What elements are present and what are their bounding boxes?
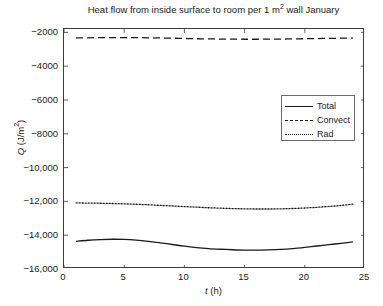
chart-title-tail: wall January — [284, 4, 339, 15]
x-axis-tick-label: 15 — [238, 271, 249, 282]
legend-item-total[interactable]: Total — [285, 99, 336, 113]
y-axis-tick-label: −2000 — [31, 26, 58, 37]
legend-item-label: Total — [317, 101, 336, 111]
chart-legend: TotalConvectRad — [281, 95, 355, 141]
y-axis-tick-label: −14,000 — [23, 229, 58, 240]
series-line-total — [76, 239, 353, 250]
x-axis-tick-label: 0 — [60, 271, 65, 282]
x-axis-tick-label: 25 — [359, 271, 370, 282]
plot-svg — [64, 29, 364, 268]
x-axis-label: t (h) — [63, 285, 364, 296]
legend-item-label: Convect — [317, 115, 350, 125]
y-axis-label-tail: ) — [15, 120, 26, 123]
y-axis-tick-label: −10,000 — [23, 161, 58, 172]
y-axis-label-variable: Q — [15, 148, 26, 155]
legend-line-sample-icon — [285, 129, 313, 139]
y-axis-tick-label: −16,000 — [23, 263, 58, 274]
x-axis-tick-label: 20 — [299, 271, 310, 282]
chart-title-main: Heat flow from inside surface to room pe… — [88, 4, 280, 15]
plot-area — [63, 28, 364, 268]
x-axis-tick-label: 5 — [121, 271, 126, 282]
y-axis-label: Q (J/m2) — [15, 98, 26, 178]
y-axis-tick-label: −6000 — [31, 93, 58, 104]
chart-title: Heat flow from inside surface to room pe… — [63, 4, 364, 16]
y-axis-label-unit: (J/m — [15, 127, 26, 148]
series-line-rad — [76, 203, 353, 209]
legend-item-label: Rad — [317, 129, 334, 139]
y-axis-tick-label: −12,000 — [23, 195, 58, 206]
x-axis-tick-label: 10 — [178, 271, 189, 282]
series-line-convect — [76, 38, 353, 40]
x-axis-label-unit: (h) — [208, 285, 222, 296]
legend-item-rad[interactable]: Rad — [285, 127, 334, 141]
y-axis-tick-labels: −2000−4000−6000−8000−10,000−12,000−14,00… — [0, 0, 58, 306]
legend-line-sample-icon — [285, 101, 313, 111]
y-axis-tick-label: −4000 — [31, 60, 58, 71]
y-axis-tick-label: −8000 — [31, 127, 58, 138]
legend-line-sample-icon — [285, 115, 313, 125]
y-axis-label-superscript: 2 — [13, 123, 20, 127]
legend-item-convect[interactable]: Convect — [285, 113, 350, 127]
figure-container: Heat flow from inside surface to room pe… — [0, 0, 383, 306]
